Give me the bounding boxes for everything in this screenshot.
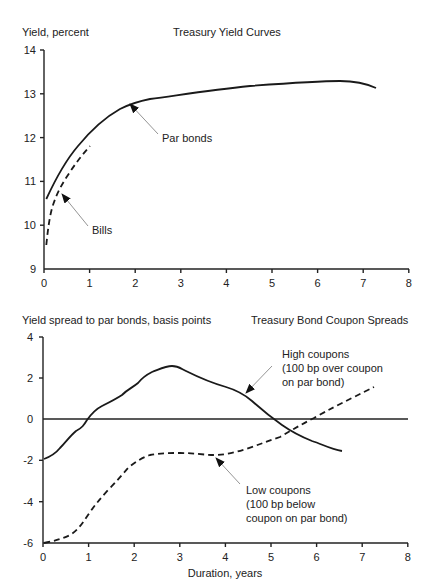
svg-text:4: 4 — [27, 331, 33, 343]
svg-text:2: 2 — [131, 551, 137, 563]
svg-text:2: 2 — [132, 277, 138, 289]
svg-text:8: 8 — [406, 277, 412, 289]
coupon-spreads-chart: Yield spread to par bonds, basis points … — [22, 314, 411, 579]
svg-text:6: 6 — [314, 551, 320, 563]
svg-text:0: 0 — [41, 277, 47, 289]
bottom-y-tick-labels: 4 2 0 -2 -4 -6 — [23, 331, 33, 549]
bottom-chart-title: Treasury Bond Coupon Spreads — [251, 314, 409, 326]
svg-text:High coupons: High coupons — [282, 348, 350, 360]
svg-text:9: 9 — [30, 263, 36, 275]
par-bonds-arrow — [130, 104, 158, 134]
top-axes — [40, 50, 409, 273]
svg-text:0: 0 — [27, 413, 33, 425]
high-coupons-arrow — [246, 366, 272, 393]
svg-text:1: 1 — [87, 277, 93, 289]
svg-text:13: 13 — [24, 88, 36, 100]
bottom-x-axis-label: Duration, years — [188, 567, 263, 579]
bottom-y-axis-label: Yield spread to par bonds, basis points — [22, 314, 212, 326]
bottom-x-tick-labels: 0 1 2 3 4 5 6 7 8 — [40, 551, 411, 563]
par-bonds-label: Par bonds — [162, 132, 213, 144]
svg-text:on par bond): on par bond) — [282, 376, 344, 388]
svg-text:(100 bp over coupon: (100 bp over coupon — [282, 362, 383, 374]
svg-text:Low coupons: Low coupons — [246, 484, 311, 496]
svg-text:11: 11 — [25, 175, 36, 187]
svg-text:-2: -2 — [23, 454, 33, 466]
svg-text:0: 0 — [40, 551, 46, 563]
svg-text:7: 7 — [360, 277, 366, 289]
bills-line — [46, 146, 90, 245]
svg-text:coupon on par bond): coupon on par bond) — [246, 512, 348, 524]
low-coupons-label: Low coupons (100 bp below coupon on par … — [246, 484, 348, 524]
svg-text:-4: -4 — [23, 496, 33, 508]
svg-text:7: 7 — [359, 551, 365, 563]
svg-text:1: 1 — [86, 551, 92, 563]
svg-text:5: 5 — [269, 277, 275, 289]
high-coupons-label: High coupons (100 bp over coupon on par … — [282, 348, 383, 388]
low-coupons-arrow — [216, 458, 240, 484]
top-x-tick-labels: 0 1 2 3 4 5 6 7 8 — [41, 277, 412, 289]
svg-text:-6: -6 — [23, 537, 33, 549]
svg-text:3: 3 — [178, 277, 184, 289]
chart-canvas: Yield, percent Treasury Yield Curves 14 … — [0, 0, 429, 588]
svg-text:4: 4 — [223, 277, 229, 289]
svg-text:3: 3 — [177, 551, 183, 563]
yield-curves-chart: Yield, percent Treasury Yield Curves 14 … — [22, 26, 412, 289]
svg-text:5: 5 — [268, 551, 274, 563]
bills-label: Bills — [92, 224, 113, 236]
svg-text:8: 8 — [405, 551, 411, 563]
svg-text:4: 4 — [222, 551, 228, 563]
svg-text:(100 bp below: (100 bp below — [246, 498, 315, 510]
bills-arrow — [62, 194, 88, 226]
svg-text:12: 12 — [24, 132, 36, 144]
top-chart-title: Treasury Yield Curves — [173, 26, 281, 38]
svg-text:2: 2 — [27, 372, 33, 384]
top-y-axis-label: Yield, percent — [22, 26, 89, 38]
svg-text:10: 10 — [24, 219, 36, 231]
svg-text:14: 14 — [24, 44, 36, 56]
svg-text:6: 6 — [315, 277, 321, 289]
top-y-tick-labels: 14 13 12 11 10 9 — [24, 44, 36, 275]
